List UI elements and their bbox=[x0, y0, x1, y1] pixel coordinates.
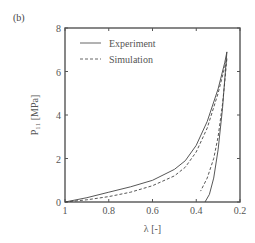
x-tick-label: 1 bbox=[63, 205, 68, 216]
y-tick-label: 6 bbox=[56, 67, 61, 78]
legend-experiment-label: Experiment bbox=[109, 38, 156, 49]
x-axis-label: λ [-] bbox=[144, 223, 161, 234]
x-tick-label: 0.8 bbox=[103, 205, 116, 216]
y-tick-label: 0 bbox=[56, 197, 61, 208]
line-chart: 10.80.60.40.202468λ [-]P₁₁ [MPa]Experime… bbox=[0, 0, 255, 243]
series-simulation-loading bbox=[65, 59, 227, 203]
x-tick-label: 0.6 bbox=[146, 205, 159, 216]
series-simulation-unloading bbox=[201, 59, 227, 192]
legend-simulation-label: Simulation bbox=[109, 54, 153, 65]
series-experiment-unloading bbox=[205, 52, 227, 202]
series-experiment-loading bbox=[65, 52, 227, 202]
y-tick-label: 8 bbox=[56, 23, 61, 34]
y-tick-label: 4 bbox=[56, 110, 61, 121]
y-axis-label: P₁₁ [MPa] bbox=[29, 95, 40, 136]
y-tick-label: 2 bbox=[56, 154, 61, 165]
x-tick-label: 0.4 bbox=[190, 205, 203, 216]
x-tick-label: 0.2 bbox=[234, 205, 247, 216]
